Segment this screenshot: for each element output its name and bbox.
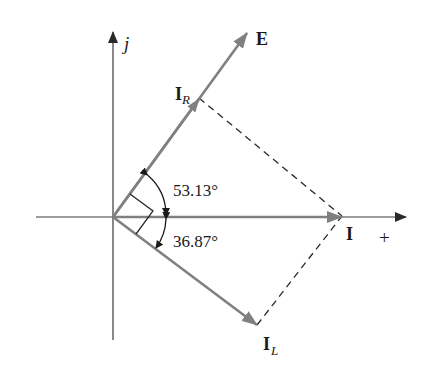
label-e: E bbox=[256, 29, 268, 49]
phasor-diagram: j + 53.13° 36.87° E I R I I L bbox=[0, 0, 428, 371]
label-ir: I R bbox=[175, 84, 190, 107]
right-angle-marker bbox=[130, 194, 153, 234]
dashed-line-ir-to-i bbox=[199, 98, 342, 216]
arc-36-87 bbox=[156, 219, 166, 248]
label-il: I L bbox=[263, 334, 278, 358]
phasors bbox=[113, 33, 342, 325]
angle-label-lower: 36.87° bbox=[173, 232, 218, 251]
parallelogram-dashes bbox=[199, 98, 342, 325]
axes: j + bbox=[36, 32, 406, 340]
vertical-axis-label: j bbox=[121, 33, 129, 54]
svg-text:L: L bbox=[270, 343, 278, 358]
horizontal-axis-label: + bbox=[379, 227, 390, 248]
svg-text:I: I bbox=[263, 334, 270, 354]
label-i: I bbox=[346, 224, 353, 244]
svg-text:I: I bbox=[175, 84, 182, 104]
angle-arcs bbox=[148, 175, 167, 248]
svg-text:R: R bbox=[181, 92, 190, 107]
angle-label-upper: 53.13° bbox=[173, 181, 218, 200]
dashed-line-il-to-i bbox=[257, 216, 342, 325]
